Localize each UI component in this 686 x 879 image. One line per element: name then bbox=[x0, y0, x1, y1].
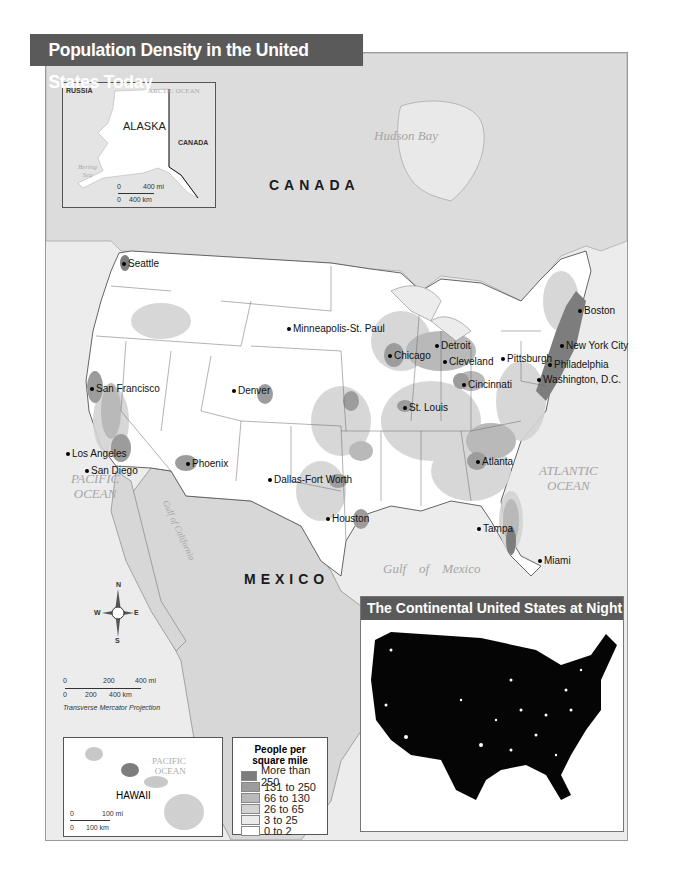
legend-item: 26 to 65 bbox=[241, 803, 319, 814]
hawaii-label: HAWAII bbox=[116, 790, 151, 801]
city-marker: Denver bbox=[232, 385, 270, 396]
night-panel-title: The Continental United States at Night bbox=[361, 597, 623, 620]
atlantic-ocean-label: ATLANTIC OCEAN bbox=[539, 463, 598, 493]
city-marker: Phoenix bbox=[186, 458, 228, 469]
city-label: Pittsburgh bbox=[507, 353, 552, 364]
city-dot-icon bbox=[560, 344, 564, 348]
legend: People per square mile More than 250131 … bbox=[232, 737, 328, 835]
scale-km-400: 400 km bbox=[109, 691, 132, 698]
city-marker: Philadelphia bbox=[548, 359, 609, 370]
hawaii-scale-zero-km: 0 bbox=[70, 824, 74, 831]
canada-inset-label: CANADA bbox=[178, 139, 208, 146]
canada-label: CANADA bbox=[269, 177, 360, 193]
legend-label: 0 to 2 bbox=[264, 825, 292, 837]
city-label: New York City bbox=[566, 340, 628, 351]
city-dot-icon bbox=[326, 517, 330, 521]
scale-mi-0: 0 bbox=[63, 677, 67, 684]
alaska-scale-bar bbox=[118, 193, 154, 194]
city-marker: Cincinnati bbox=[462, 379, 512, 390]
map-title: Population Density in the United States … bbox=[30, 34, 363, 66]
city-dot-icon bbox=[538, 559, 542, 563]
scale-km-200: 200 bbox=[85, 691, 97, 698]
city-dot-icon bbox=[90, 387, 94, 391]
alaska-scale-zero-km: 0 bbox=[117, 196, 121, 203]
city-marker: Seattle bbox=[122, 258, 159, 269]
city-marker: Tampa bbox=[477, 523, 513, 534]
city-dot-icon bbox=[537, 378, 541, 382]
city-label: Minneapolis-St. Paul bbox=[293, 323, 385, 334]
city-marker: Detroit bbox=[435, 340, 470, 351]
alaska-scale-mi: 400 mi bbox=[143, 183, 164, 190]
city-label: St. Louis bbox=[409, 402, 448, 413]
city-dot-icon bbox=[548, 363, 552, 367]
city-marker: New York City bbox=[560, 340, 628, 351]
city-dot-icon bbox=[122, 262, 126, 266]
city-label: Detroit bbox=[441, 340, 470, 351]
alaska-label: ALASKA bbox=[123, 120, 166, 132]
city-marker: St. Louis bbox=[403, 402, 448, 413]
compass-s: S bbox=[115, 637, 120, 644]
scale-mi-400: 400 mi bbox=[135, 677, 156, 684]
city-marker: Houston bbox=[326, 513, 369, 524]
city-marker: Los Angeles bbox=[66, 448, 127, 459]
scale-mi-200: 200 bbox=[103, 677, 115, 684]
mexico-label: MEXICO bbox=[244, 571, 329, 587]
city-label: Denver bbox=[238, 385, 270, 396]
city-marker: San Diego bbox=[85, 465, 138, 476]
alaska-scale-zero: 0 bbox=[117, 183, 121, 190]
legend-item: 0 to 2 bbox=[241, 825, 319, 836]
city-label: San Francisco bbox=[96, 383, 160, 394]
city-marker: Minneapolis-St. Paul bbox=[287, 323, 385, 334]
legend-swatch bbox=[241, 782, 260, 792]
city-dot-icon bbox=[403, 406, 407, 410]
city-label: Los Angeles bbox=[72, 448, 127, 459]
legend-item: 66 to 130 bbox=[241, 792, 319, 803]
alaska-scale-km: 400 km bbox=[129, 196, 152, 203]
hawaii-pacific-label: PACIFIC OCEAN bbox=[152, 756, 186, 776]
city-label: Cleveland bbox=[449, 356, 493, 367]
city-label: San Diego bbox=[91, 465, 138, 476]
compass-rose-icon: N S E W bbox=[98, 583, 138, 643]
bering-sea-label: Bering Sea bbox=[78, 163, 97, 179]
city-label: Tampa bbox=[483, 523, 513, 534]
city-marker: Chicago bbox=[388, 350, 431, 361]
city-marker: Dallas-Fort Worth bbox=[268, 474, 352, 485]
city-label: Atlanta bbox=[482, 456, 513, 467]
city-dot-icon bbox=[476, 460, 480, 464]
legend-swatch bbox=[241, 826, 260, 836]
legend-swatch bbox=[241, 815, 260, 825]
night-panel: The Continental United States at Night bbox=[360, 596, 624, 832]
arctic-ocean-label: ARCTIC OCEAN bbox=[148, 87, 200, 95]
city-label: Chicago bbox=[394, 350, 431, 361]
city-label: Phoenix bbox=[192, 458, 228, 469]
city-marker: Atlanta bbox=[476, 456, 513, 467]
gulf-of-mexico-label: Gulf of Mexico bbox=[383, 561, 480, 576]
hawaii-scale-mi: 100 mi bbox=[102, 810, 123, 817]
hawaii-scale-km: 100 km bbox=[86, 824, 109, 831]
city-marker: Boston bbox=[578, 305, 615, 316]
city-dot-icon bbox=[462, 383, 466, 387]
city-label: Miami bbox=[544, 555, 571, 566]
scale-km-0: 0 bbox=[63, 691, 67, 698]
city-dot-icon bbox=[435, 344, 439, 348]
hawaii-scale-zero: 0 bbox=[70, 810, 74, 817]
legend-item: 131 to 250 bbox=[241, 781, 319, 792]
legend-swatch bbox=[241, 804, 260, 814]
legend-swatch bbox=[241, 771, 257, 781]
city-label: Dallas-Fort Worth bbox=[274, 474, 352, 485]
legend-swatch bbox=[241, 793, 260, 803]
city-dot-icon bbox=[186, 462, 190, 466]
hudson-bay-label: Hudson Bay bbox=[374, 128, 438, 143]
city-label: Seattle bbox=[128, 258, 159, 269]
city-marker: Cleveland bbox=[443, 356, 493, 367]
compass-n: N bbox=[116, 581, 121, 588]
city-dot-icon bbox=[477, 527, 481, 531]
city-dot-icon bbox=[501, 357, 505, 361]
city-marker: San Francisco bbox=[90, 383, 160, 394]
city-label: Washington, D.C. bbox=[543, 374, 621, 385]
city-dot-icon bbox=[66, 452, 70, 456]
city-dot-icon bbox=[578, 309, 582, 313]
night-map bbox=[361, 620, 623, 830]
main-scale: 0 200 400 mi 0 200 400 km Transverse Mer… bbox=[63, 677, 163, 717]
compass-w: W bbox=[94, 609, 101, 616]
